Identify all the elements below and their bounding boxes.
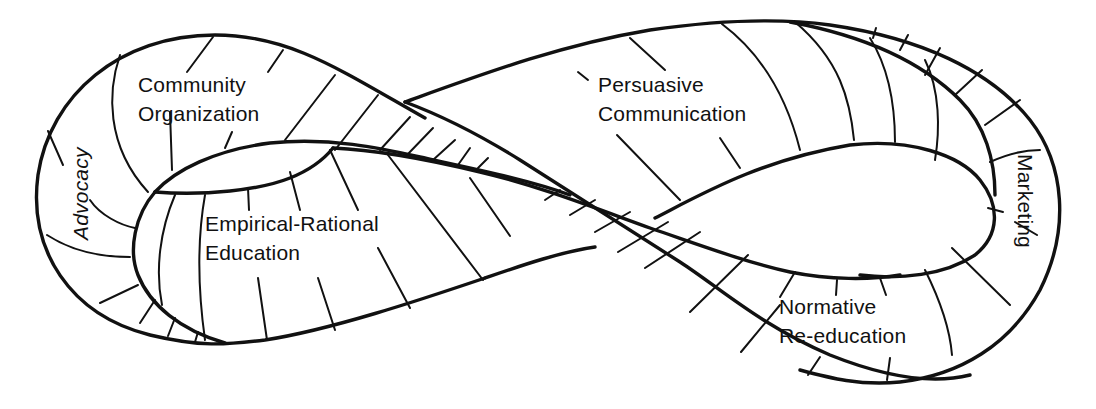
label-advocacy: Advocacy [66,147,95,240]
label-empirical-line1: Empirical-Rational [205,209,379,238]
label-community-line1: Community [138,70,259,99]
crossing-band-edge-c [485,247,595,278]
label-advocacy-text: Advocacy [69,147,92,240]
label-persuasive-communication: Persuasive Communication [598,70,747,128]
label-normative-line1: Normative [779,292,906,321]
crossing-rulings [380,117,748,312]
label-normative-re-education: Normative Re-education [779,292,906,350]
ribbon-drawing [0,0,1096,409]
label-community-organization: Community Organization [138,70,259,128]
label-persuasive-line1: Persuasive [598,70,747,99]
left-loop-rulings [47,37,483,342]
mobius-strip-diagram: Community Organization Advocacy Empirica… [0,0,1096,409]
label-empirical-rational-education: Empirical-Rational Education [205,209,379,267]
label-marketing-text: Marketing [1014,154,1037,248]
label-persuasive-line2: Communication [598,99,747,128]
label-normative-line2: Re-education [779,321,906,350]
crossing-band-edge-b [333,148,900,278]
label-marketing: Marketing [1011,154,1040,248]
label-empirical-line2: Education [205,238,379,267]
right-loop-inner-edge [655,143,994,276]
label-community-line2: Organization [138,99,259,128]
